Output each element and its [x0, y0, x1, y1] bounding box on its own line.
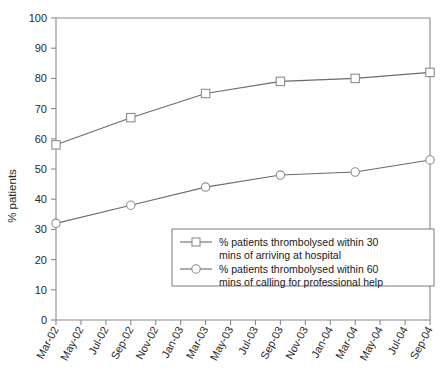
- data-point-marker-circle: [52, 219, 60, 227]
- legend-label-series-1-line-1: % patients thrombolysed within 30: [219, 236, 378, 248]
- x-tick-label: Mar-03: [183, 324, 210, 360]
- x-tick-label: Jul-04: [385, 324, 410, 356]
- y-tick-label: 40: [35, 193, 47, 205]
- x-tick-group: Mar-02May-02Jul-02Sep-02Nov-02Jan-03Mar-…: [34, 320, 435, 362]
- legend-marker-circle: [192, 265, 200, 273]
- y-tick-label: 10: [35, 284, 47, 296]
- x-tick-label: Sep-04: [408, 324, 435, 361]
- line-chart: % patients 0102030405060708090100 Mar-02…: [0, 0, 445, 382]
- y-tick-label: 80: [35, 72, 47, 84]
- legend-label-series-2-line-2: mins of calling for professional help: [219, 276, 383, 288]
- data-point-marker-circle: [276, 171, 284, 179]
- legend-marker-square: [192, 238, 200, 246]
- y-tick-label: 50: [35, 163, 47, 175]
- chart-legend: % patients thrombolysed within 30 mins o…: [172, 229, 434, 288]
- x-tick-label: Jan-03: [159, 324, 185, 359]
- y-tick-label: 0: [41, 314, 47, 326]
- data-point-marker-square: [127, 113, 135, 121]
- legend-label-series-1-line-2: mins of arriving at hospital: [219, 249, 341, 261]
- series-group: [52, 68, 434, 227]
- y-tick-group: 0102030405060708090100: [29, 12, 56, 326]
- y-tick-label: 70: [35, 103, 47, 115]
- x-tick-label: Sep-03: [258, 324, 285, 361]
- y-tick-label: 20: [35, 254, 47, 266]
- x-tick-label: Nov-02: [133, 324, 160, 361]
- x-tick-label: May-03: [207, 324, 235, 362]
- data-point-marker-square: [276, 77, 284, 85]
- data-point-marker-square: [201, 89, 209, 97]
- x-tick-label: Jul-03: [236, 324, 261, 356]
- y-axis-title: % patients: [6, 169, 18, 223]
- x-tick-label: May-02: [58, 324, 86, 362]
- series-line-2: [56, 160, 430, 223]
- y-tick-label: 30: [35, 223, 47, 235]
- y-tick-label: 90: [35, 42, 47, 54]
- data-point-marker-circle: [127, 201, 135, 209]
- legend-label-series-2-line-1: % patients thrombolysed within 60: [219, 263, 378, 275]
- x-tick-label: Mar-02: [34, 324, 61, 360]
- chart-container: % patients 0102030405060708090100 Mar-02…: [0, 0, 445, 382]
- x-tick-label: Jul-02: [86, 324, 111, 356]
- data-point-marker-square: [52, 141, 60, 149]
- data-point-marker-circle: [426, 156, 434, 164]
- x-tick-label: Sep-02: [108, 324, 135, 361]
- x-tick-label: May-04: [357, 324, 385, 362]
- series-line-1: [56, 72, 430, 144]
- x-tick-label: Mar-04: [333, 324, 360, 360]
- x-tick-label: Jan-04: [309, 324, 335, 359]
- x-tick-label: Nov-03: [283, 324, 310, 361]
- y-tick-label: 100: [29, 12, 47, 24]
- data-point-marker-square: [351, 74, 359, 82]
- data-point-marker-square: [426, 68, 434, 76]
- y-tick-label: 60: [35, 133, 47, 145]
- data-point-marker-circle: [351, 168, 359, 176]
- data-point-marker-circle: [201, 183, 209, 191]
